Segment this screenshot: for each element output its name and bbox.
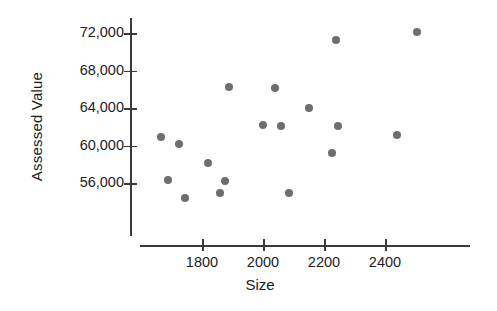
x-tick-mark — [202, 239, 204, 251]
y-tick-label: 72,000 — [50, 24, 124, 40]
x-tick-label: 2000 — [228, 254, 298, 270]
data-point — [221, 177, 229, 185]
data-point — [157, 133, 165, 141]
y-tick-label: 64,000 — [50, 99, 124, 115]
data-point — [181, 194, 189, 202]
x-tick-label: 2400 — [350, 254, 420, 270]
data-point — [305, 104, 313, 112]
x-tick-mark — [263, 239, 265, 251]
x-tick-label: 2200 — [289, 254, 359, 270]
x-axis-line — [140, 245, 470, 247]
y-tick-label: 56,000 — [50, 174, 124, 190]
data-point — [413, 28, 421, 36]
data-point — [271, 84, 279, 92]
x-tick-mark — [385, 239, 387, 251]
y-axis-line — [130, 18, 132, 236]
data-point — [328, 149, 336, 157]
data-point — [334, 122, 342, 130]
x-tick-mark — [324, 239, 326, 251]
y-tick-mark — [124, 108, 137, 110]
x-axis-label: Size — [180, 276, 340, 293]
y-tick-mark — [124, 71, 137, 73]
y-tick-mark — [124, 183, 137, 185]
data-point — [285, 189, 293, 197]
data-point — [216, 189, 224, 197]
data-point — [277, 122, 285, 130]
scatter-plot: Assessed Value Size 56,00060,00064,00068… — [0, 0, 497, 311]
data-point — [225, 83, 233, 91]
y-tick-label: 68,000 — [50, 62, 124, 78]
data-point — [332, 36, 340, 44]
y-tick-label: 60,000 — [50, 137, 124, 153]
data-point — [175, 140, 183, 148]
y-tick-mark — [124, 146, 137, 148]
x-tick-label: 1800 — [167, 254, 237, 270]
data-point — [164, 176, 172, 184]
y-axis-label: Assessed Value — [28, 47, 45, 207]
data-point — [259, 121, 267, 129]
data-point — [204, 159, 212, 167]
y-tick-mark — [124, 33, 137, 35]
data-point — [393, 131, 401, 139]
